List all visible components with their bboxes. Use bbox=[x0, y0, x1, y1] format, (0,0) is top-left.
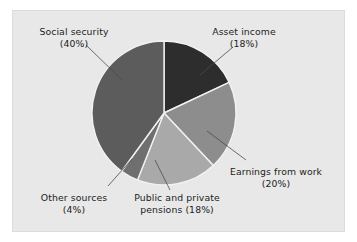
pie-label-other-sources-line2: (4%) bbox=[30, 204, 118, 216]
pie-label-asset-income-line2: (18%) bbox=[198, 38, 290, 50]
pie-label-asset-income-line1: Asset income bbox=[212, 26, 276, 37]
pie-label-other-sources-line1: Other sources bbox=[41, 192, 107, 203]
pie-label-social-security: Social security (40%) bbox=[26, 26, 122, 49]
pie-label-public-and-private-pensions-line1: Public and private bbox=[134, 192, 220, 203]
pie-label-social-security-line1: Social security bbox=[39, 26, 108, 37]
pie-label-earnings-from-work-line2: (20%) bbox=[216, 178, 336, 190]
pie-chart-figure: Social security (40%) Asset income (18%)… bbox=[0, 0, 357, 242]
pie-label-asset-income: Asset income (18%) bbox=[198, 26, 290, 49]
pie-label-earnings-from-work-line1: Earnings from work bbox=[230, 166, 322, 177]
pie-label-public-and-private-pensions-line2: pensions (18%) bbox=[122, 204, 232, 216]
pie-label-social-security-line2: (40%) bbox=[26, 38, 122, 50]
pie-label-earnings-from-work: Earnings from work (20%) bbox=[216, 166, 336, 189]
pie-label-public-and-private-pensions: Public and private pensions (18%) bbox=[122, 192, 232, 215]
pie-label-other-sources: Other sources (4%) bbox=[30, 192, 118, 215]
